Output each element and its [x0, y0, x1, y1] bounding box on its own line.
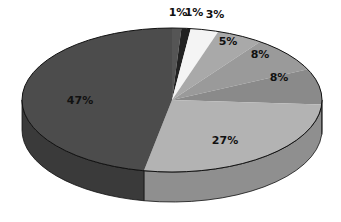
slice-label-2: 1% — [185, 6, 204, 19]
slice-label-3: 3% — [206, 8, 225, 21]
slice-label-8: 47% — [67, 94, 93, 107]
slice-label-5: 8% — [251, 48, 270, 61]
slice-label-7: 27% — [212, 134, 238, 147]
slice-label-6: 8% — [270, 71, 289, 84]
pie-chart-3d: 1%1%3%5%8%8%27%47% — [0, 0, 341, 222]
slice-label-4: 5% — [219, 35, 238, 48]
